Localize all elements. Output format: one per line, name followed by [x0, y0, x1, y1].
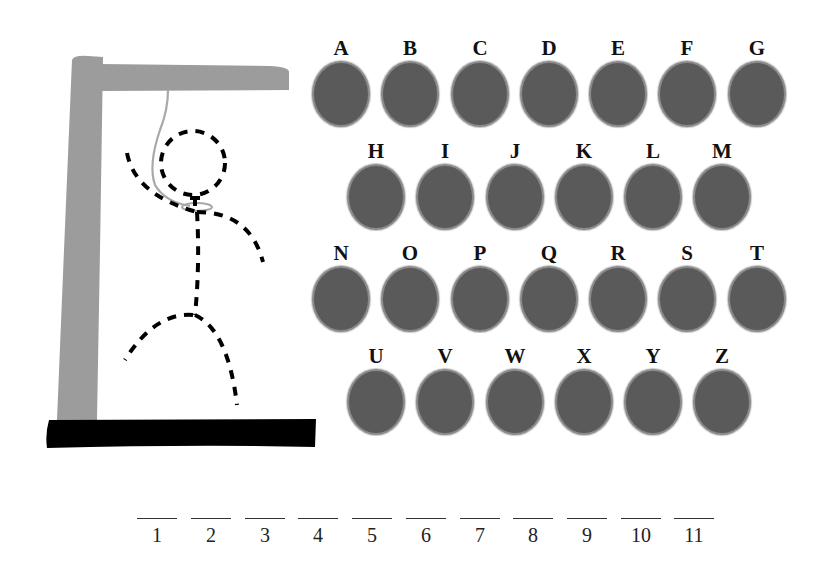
blank-number: 4 [298, 524, 338, 546]
letter-key-n[interactable]: N [312, 241, 370, 331]
letter-key-e[interactable]: E [589, 36, 647, 126]
letter-label: B [381, 36, 439, 60]
hangman-left-leg [125, 315, 193, 360]
letter-button-oval[interactable] [381, 61, 439, 127]
letter-button-oval[interactable] [658, 266, 716, 332]
letter-blank-8: 8 [513, 518, 553, 558]
gallows-beam [100, 64, 289, 91]
rope [152, 90, 190, 206]
letter-label: T [728, 241, 786, 265]
letter-label: L [624, 139, 682, 163]
letter-key-i[interactable]: I [416, 139, 474, 229]
letter-label: R [589, 241, 647, 265]
noose [182, 203, 212, 211]
letter-key-o[interactable]: O [381, 241, 439, 331]
letter-label: U [347, 344, 405, 368]
letter-key-w[interactable]: W [486, 344, 544, 434]
blank-number: 1 [137, 524, 177, 546]
letter-button-oval[interactable] [520, 266, 578, 332]
letter-label: C [451, 36, 509, 60]
blank-line [352, 518, 392, 519]
letter-key-c[interactable]: C [451, 36, 509, 126]
letter-blank-4: 4 [298, 518, 338, 558]
letter-key-x[interactable]: X [555, 344, 613, 434]
letter-blank-10: 10 [621, 518, 661, 558]
letter-button-oval[interactable] [451, 61, 509, 127]
letter-key-d[interactable]: D [520, 36, 578, 126]
blank-line [245, 518, 285, 519]
letter-label: J [486, 139, 544, 163]
letter-key-h[interactable]: H [347, 139, 405, 229]
letter-blank-6: 6 [406, 518, 446, 558]
letter-label: G [728, 36, 786, 60]
blank-number: 3 [245, 524, 285, 546]
letter-button-oval[interactable] [693, 369, 751, 435]
blank-line [674, 518, 714, 519]
letter-key-y[interactable]: Y [624, 344, 682, 434]
letter-key-l[interactable]: L [624, 139, 682, 229]
letter-button-oval[interactable] [693, 164, 751, 230]
letter-key-s[interactable]: S [658, 241, 716, 331]
letter-button-oval[interactable] [486, 164, 544, 230]
blank-number: 11 [674, 524, 714, 546]
letter-key-k[interactable]: K [555, 139, 613, 229]
letter-button-oval[interactable] [381, 266, 439, 332]
letter-button-oval[interactable] [347, 164, 405, 230]
letter-button-oval[interactable] [728, 266, 786, 332]
letter-button-oval[interactable] [451, 266, 509, 332]
hangman-body [195, 212, 198, 315]
letter-button-oval[interactable] [486, 369, 544, 435]
blank-number: 10 [621, 524, 661, 546]
letter-button-oval[interactable] [520, 61, 578, 127]
blank-number: 9 [567, 524, 607, 546]
letter-label: Y [624, 344, 682, 368]
letter-button-oval[interactable] [624, 369, 682, 435]
letter-label: P [451, 241, 509, 265]
letter-button-oval[interactable] [555, 369, 613, 435]
letter-label: S [658, 241, 716, 265]
letter-key-b[interactable]: B [381, 36, 439, 126]
letter-button-oval[interactable] [624, 164, 682, 230]
letter-blank-7: 7 [460, 518, 500, 558]
letter-key-j[interactable]: J [486, 139, 544, 229]
letter-key-m[interactable]: M [693, 139, 751, 229]
letter-label: N [312, 241, 370, 265]
letter-key-f[interactable]: F [658, 36, 716, 126]
blank-line [621, 518, 661, 519]
letter-button-oval[interactable] [589, 266, 647, 332]
letter-button-oval[interactable] [312, 266, 370, 332]
letter-blank-1: 1 [137, 518, 177, 558]
letter-button-oval[interactable] [658, 61, 716, 127]
letter-key-q[interactable]: Q [520, 241, 578, 331]
letter-button-oval[interactable] [589, 61, 647, 127]
letter-button-oval[interactable] [347, 369, 405, 435]
blank-number: 2 [191, 524, 231, 546]
letter-label: E [589, 36, 647, 60]
blank-number: 7 [460, 524, 500, 546]
blank-number: 5 [352, 524, 392, 546]
hangman-right-leg [195, 315, 237, 405]
letter-key-t[interactable]: T [728, 241, 786, 331]
blank-line [460, 518, 500, 519]
letter-button-oval[interactable] [312, 61, 370, 127]
letter-key-a[interactable]: A [312, 36, 370, 126]
letter-label: A [312, 36, 370, 60]
letter-key-r[interactable]: R [589, 241, 647, 331]
letter-label: V [416, 344, 474, 368]
letter-key-p[interactable]: P [451, 241, 509, 331]
blank-line [298, 518, 338, 519]
letter-button-oval[interactable] [555, 164, 613, 230]
gallows-post [57, 56, 103, 420]
letter-button-oval[interactable] [416, 164, 474, 230]
letter-key-g[interactable]: G [728, 36, 786, 126]
letter-button-oval[interactable] [416, 369, 474, 435]
letter-label: M [693, 139, 751, 163]
letter-button-oval[interactable] [728, 61, 786, 127]
letter-key-z[interactable]: Z [693, 344, 751, 434]
letter-key-u[interactable]: U [347, 344, 405, 434]
letter-key-v[interactable]: V [416, 344, 474, 434]
letter-label: H [347, 139, 405, 163]
blank-line [406, 518, 446, 519]
letter-label: D [520, 36, 578, 60]
letter-blank-2: 2 [191, 518, 231, 558]
